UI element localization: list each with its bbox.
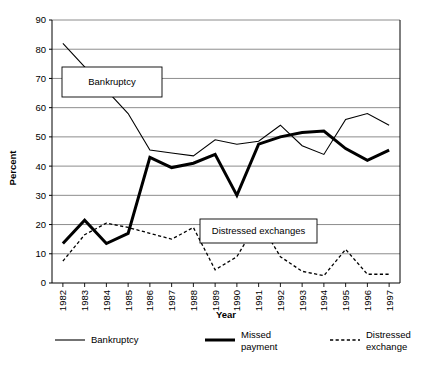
callout-label: Distressed exchanges (212, 225, 306, 236)
y-tick-label-40: 40 (35, 161, 46, 172)
callout-distressed-exchanges: Distressed exchanges (200, 219, 317, 243)
x-tick-label-1982: 1982 (57, 290, 68, 311)
x-tick-label-1993: 1993 (297, 290, 308, 311)
x-tick-label-1989: 1989 (210, 290, 221, 311)
y-tick-label-0: 0 (41, 277, 46, 288)
y-tick-label-70: 70 (35, 73, 46, 84)
x-tick-label-1991: 1991 (253, 290, 264, 311)
legend-label: Bankruptcy (91, 334, 139, 345)
y-tick-label-10: 10 (35, 248, 46, 259)
legend-label-line2: payment (241, 341, 278, 352)
x-tick-label-1992: 1992 (275, 290, 286, 311)
y-tick-label-50: 50 (35, 131, 46, 142)
x-tick-label-1984: 1984 (101, 290, 112, 311)
y-tick-label-90: 90 (35, 14, 46, 25)
callout-bankruptcy: Bankruptcy (62, 67, 162, 97)
x-tick-label-1994: 1994 (318, 290, 329, 311)
x-tick-label-1987: 1987 (166, 290, 177, 311)
y-axis-title: Percent (7, 150, 18, 186)
x-tick-label-1997: 1997 (384, 290, 395, 311)
callout-label: Bankruptcy (88, 76, 136, 87)
y-tick-label-30: 30 (35, 190, 46, 201)
x-tick-label-1996: 1996 (362, 290, 373, 311)
chart-container: 0102030405060708090 19821983198419851986… (0, 0, 430, 365)
chart-svg: 0102030405060708090 19821983198419851986… (0, 0, 430, 365)
x-tick-label-1983: 1983 (79, 290, 90, 311)
y-tick-label-60: 60 (35, 102, 46, 113)
x-axis-title: Year (216, 309, 236, 320)
x-tick-label-1990: 1990 (231, 290, 242, 311)
y-tick-label-80: 80 (35, 44, 46, 55)
legend-label: Missed (241, 329, 271, 340)
x-tick-label-1995: 1995 (340, 290, 351, 311)
y-tick-label-20: 20 (35, 219, 46, 230)
x-tick-label-1985: 1985 (123, 290, 134, 311)
x-tick-label-1986: 1986 (144, 290, 155, 311)
legend-label: Distressed (366, 329, 411, 340)
x-tick-label-1988: 1988 (188, 290, 199, 311)
legend-label-line2: exchange (366, 341, 407, 352)
